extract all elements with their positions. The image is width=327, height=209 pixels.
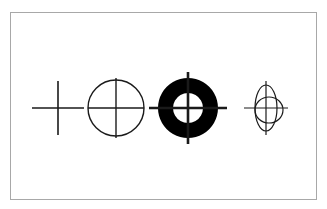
round-inner-ellipse [255, 97, 283, 123]
figure-root: Crosshair and target symbol variants [0, 0, 327, 209]
symbol-canvas [0, 0, 327, 209]
symbol-circle-crosshair [88, 78, 144, 138]
symbol-plain-crosshair [32, 81, 84, 135]
symbol-filled-annulus-crosshair [149, 72, 227, 144]
symbol-double-ellipse-crosshair [244, 81, 288, 135]
